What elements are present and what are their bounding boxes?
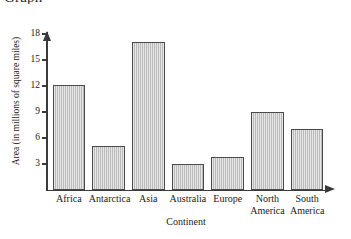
x-label-africa: Africa [49, 193, 89, 205]
x-label-asia: Asia [128, 193, 168, 205]
y-tick-label: 15 [31, 54, 41, 64]
x-label-europe: Europe [208, 193, 248, 205]
x-label-antarctica: Antarctica [89, 193, 129, 205]
bar-north-america [251, 112, 284, 189]
x-label-line1: Australia [170, 193, 207, 204]
y-tick-mark [42, 85, 47, 86]
y-tick-mark [42, 137, 47, 138]
bar-australia [172, 164, 205, 190]
x-axis-line [46, 190, 326, 192]
x-label-line1: North [256, 193, 279, 204]
y-tick-mark [42, 111, 47, 112]
x-label-line1: Antarctica [89, 193, 131, 204]
bar-europe [211, 157, 244, 190]
bar-chart-figure: Graph Area (in millions of square miles)… [0, 0, 351, 239]
y-tick-mark [42, 33, 47, 34]
bar-asia [132, 42, 165, 190]
x-label-line1: South [295, 193, 318, 204]
y-tick-mark [42, 163, 47, 164]
cropped-page-title: Graph [4, 0, 43, 4]
x-label-line1: Asia [139, 193, 157, 204]
x-label-australia: Australia [168, 193, 208, 205]
bar-antarctica [92, 146, 125, 189]
y-axis-title: Area (in millions of square miles) [11, 21, 21, 181]
x-label-south-america: SouthAmerica [287, 193, 327, 216]
bar-south-america [291, 129, 324, 190]
y-tick-label: 18 [31, 28, 41, 38]
x-label-line2: America [248, 205, 288, 217]
x-label-line1: Europe [213, 193, 242, 204]
plot-area: 369121518 AfricaAntarcticaAsiaAustraliaE… [46, 24, 338, 191]
y-tick-label: 9 [35, 106, 40, 116]
x-axis-arrow-icon [325, 185, 335, 193]
bar-africa [53, 85, 86, 190]
y-tick-label: 6 [35, 132, 40, 142]
y-tick-mark [42, 59, 47, 60]
x-label-line2: America [287, 205, 327, 217]
x-axis-title: Continent [46, 216, 326, 227]
y-tick-label: 3 [35, 158, 40, 168]
x-label-line1: Africa [56, 193, 82, 204]
x-label-north-america: NorthAmerica [248, 193, 288, 216]
y-tick-label: 12 [31, 80, 41, 90]
